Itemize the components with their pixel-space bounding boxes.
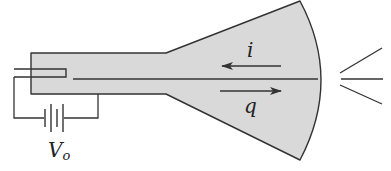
circuit-wire-right: [64, 94, 98, 118]
current-label: i: [247, 40, 253, 60]
emission-rays-icon: [340, 48, 383, 104]
voltage-label-subscript: o: [62, 148, 70, 163]
battery-icon: [45, 104, 63, 132]
voltage-label-main: V: [48, 138, 62, 162]
voltage-label: Vo: [48, 140, 70, 162]
charge-label: q: [244, 96, 257, 116]
tube-body: [31, 1, 321, 160]
